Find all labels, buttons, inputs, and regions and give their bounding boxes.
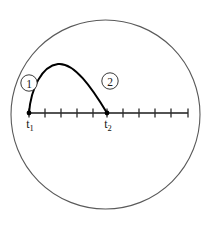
trajectory-figure: 1 2 t1 t2 [0,0,211,229]
t2-label: t2 [104,117,112,133]
region-marker-1-label: 1 [26,78,32,90]
region-marker-2-label: 2 [107,76,113,88]
figure-container: 1 2 t1 t2 [0,0,211,229]
t1-label-subscript: 1 [30,123,34,133]
t1-label: t1 [26,117,34,133]
region-marker-2: 2 [102,73,118,89]
t2-endpoint [105,111,110,116]
trajectory-curve [29,64,107,113]
t2-label-subscript: 2 [108,123,112,133]
t1-endpoint [27,111,32,116]
region-marker-1: 1 [21,75,37,91]
